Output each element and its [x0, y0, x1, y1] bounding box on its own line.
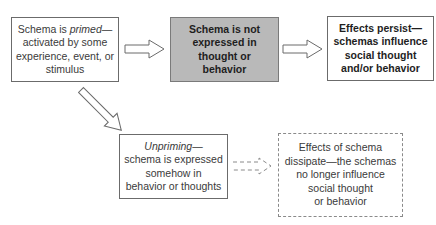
italic-primed: primed — [70, 23, 102, 35]
node-schema-primed: Schema is primed— activated by some expe… — [11, 17, 119, 82]
node-effects-dissipate: Effects of schema dissipate—the schemas … — [278, 133, 403, 217]
node-unpriming: Unpriming— schema is expressed somehow i… — [119, 134, 228, 199]
node-effects-persist: Effects persist— schemas influence socia… — [327, 16, 434, 81]
arrow-unpriming-to-dissipate — [233, 158, 271, 174]
arrow-primed-to-unpriming — [75, 84, 128, 137]
arrow-primed-to-not-expressed — [125, 40, 164, 58]
italic-unpriming: Unpriming — [144, 140, 192, 152]
arrow-not-expressed-to-persist — [283, 40, 322, 58]
node-schema-not-expressed: Schema is not expressed in thought or be… — [170, 17, 279, 82]
